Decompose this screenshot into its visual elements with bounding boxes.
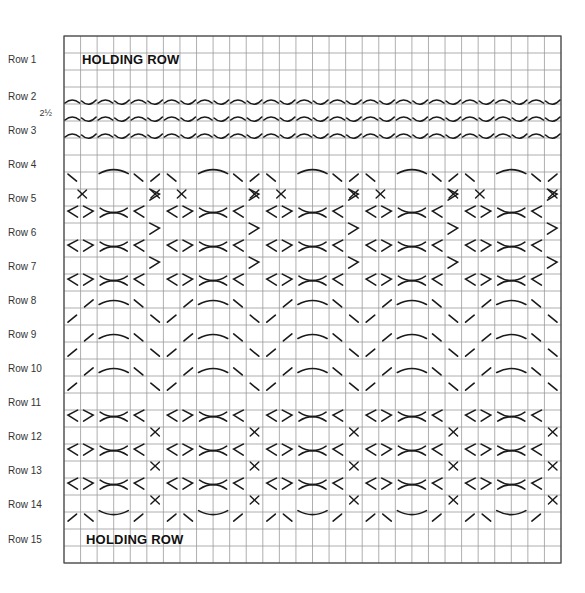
row-label: Row 14 xyxy=(8,499,66,510)
row-label: Row 2 xyxy=(8,91,66,102)
row-label: Row 11 xyxy=(8,397,66,408)
row-label: Row 4 xyxy=(8,159,66,170)
row-label: Row 5 xyxy=(8,193,66,204)
stitch-chart-grid xyxy=(0,0,585,593)
holding-row-bottom-label: HOLDING ROW xyxy=(86,532,184,547)
holding-row-top-label: HOLDING ROW xyxy=(82,52,180,67)
row-label: Row 7 xyxy=(8,261,66,272)
row-label: Row 8 xyxy=(8,295,66,306)
row-label: Row 13 xyxy=(8,465,66,476)
row-label: Row 6 xyxy=(8,227,66,238)
row-label: Row 10 xyxy=(8,363,66,374)
row-label: Row 3 xyxy=(8,125,66,136)
row-label: 2½ xyxy=(0,108,52,118)
row-label: Row 9 xyxy=(8,329,66,340)
row-label: Row 12 xyxy=(8,431,66,442)
row-label: Row 15 xyxy=(8,534,66,545)
row-label: Row 1 xyxy=(8,54,66,65)
